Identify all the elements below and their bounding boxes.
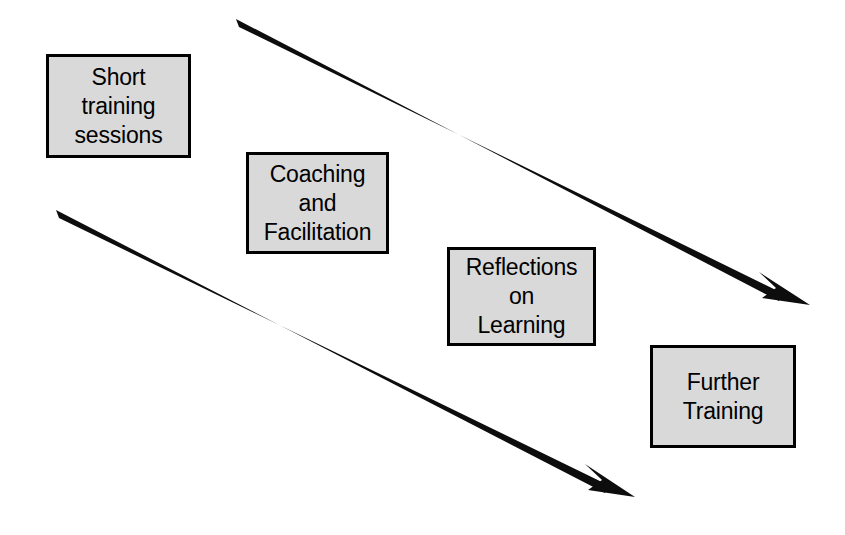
- box-line: Learning: [478, 311, 566, 340]
- box-line: sessions: [75, 121, 163, 150]
- box-line: training: [82, 92, 156, 121]
- box-line: on: [509, 282, 534, 311]
- box-line: Short: [92, 63, 146, 92]
- diagram-canvas: Short training sessions Coaching and Fac…: [0, 0, 845, 535]
- process-box-short-training-sessions[interactable]: Short training sessions: [46, 54, 191, 158]
- process-box-reflections-on-learning[interactable]: Reflections on Learning: [447, 247, 596, 346]
- box-line: and: [299, 189, 337, 218]
- box-line: Training: [683, 397, 764, 426]
- box-line: Further: [687, 368, 760, 397]
- process-box-coaching-and-facilitation[interactable]: Coaching and Facilitation: [246, 152, 389, 254]
- box-line: Reflections: [466, 253, 578, 282]
- box-line: Coaching: [270, 160, 366, 189]
- process-box-further-training[interactable]: Further Training: [650, 345, 796, 448]
- box-line: Facilitation: [264, 218, 372, 247]
